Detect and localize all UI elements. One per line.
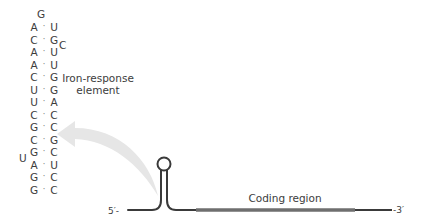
curved-arrow-icon	[57, 121, 158, 196]
base-left: G	[29, 121, 39, 133]
base-pair: G · C	[29, 121, 63, 133]
pair-dot: ·	[41, 84, 47, 96]
pair-dot: ·	[41, 159, 47, 171]
base-right: G	[49, 34, 59, 46]
base-pair: A · U	[29, 46, 63, 58]
base-left: C	[29, 34, 39, 46]
pair-dot: ·	[41, 71, 47, 83]
base-right: G	[49, 71, 59, 83]
base-pair: U · G	[29, 84, 63, 96]
element-label: Iron-response element	[60, 72, 136, 96]
base-left: G	[29, 184, 39, 196]
base-right: U	[49, 59, 59, 71]
bulge-nucleotide-right: C	[59, 39, 66, 51]
five-prime-label: 5′-	[108, 205, 119, 217]
base-pair: A · U	[29, 159, 63, 171]
base-right: A	[49, 96, 59, 108]
base-pair: C · G	[29, 134, 63, 146]
pair-dot: ·	[41, 134, 47, 146]
pair-dot: ·	[41, 96, 47, 108]
loop-top-nucleotide: G	[37, 8, 45, 20]
base-right: U	[49, 159, 59, 171]
bulge-nucleotide-left: U	[19, 152, 27, 164]
base-left: A	[29, 59, 39, 71]
pair-dot: ·	[41, 46, 47, 58]
element-label-line2: element	[60, 84, 136, 96]
base-right: U	[49, 46, 59, 58]
base-pair: C · G	[29, 34, 63, 46]
base-pair: A · U	[29, 21, 63, 33]
base-left: C	[29, 109, 39, 121]
base-left: G	[29, 146, 39, 158]
base-pair: G · C	[29, 171, 63, 183]
base-right: C	[49, 171, 59, 183]
pair-dot: ·	[41, 109, 47, 121]
base-right: C	[49, 184, 59, 196]
ire-diagram: G A · U C · G A · U A · U C · G U · G U …	[0, 0, 423, 223]
base-left: C	[29, 71, 39, 83]
pair-dot: ·	[41, 21, 47, 33]
element-label-line1: Iron-response	[60, 72, 136, 84]
base-right: G	[49, 134, 59, 146]
base-right: C	[49, 109, 59, 121]
pair-dot: ·	[41, 59, 47, 71]
pair-dot: ·	[41, 146, 47, 158]
base-left: A	[29, 46, 39, 58]
base-right: C	[49, 146, 59, 158]
base-pair: A · U	[29, 59, 63, 71]
base-right: C	[49, 121, 59, 133]
diagram-graphics	[0, 0, 423, 223]
pair-dot: ·	[41, 34, 47, 46]
pair-dot: ·	[41, 184, 47, 196]
base-left: C	[29, 134, 39, 146]
base-pair: C · G	[29, 71, 63, 83]
three-prime-label: -3′	[393, 204, 404, 216]
base-pair: G · C	[29, 184, 63, 196]
base-pair: C · C	[29, 109, 63, 121]
base-left: A	[29, 21, 39, 33]
base-left: G	[29, 171, 39, 183]
base-left: U	[29, 96, 39, 108]
pair-dot: ·	[41, 171, 47, 183]
base-right: U	[49, 21, 59, 33]
base-left: U	[29, 84, 39, 96]
base-pair: U · A	[29, 96, 63, 108]
base-left: A	[29, 159, 39, 171]
base-pair: G · C	[29, 146, 63, 158]
coding-region-label: Coding region	[240, 192, 330, 204]
pair-dot: ·	[41, 121, 47, 133]
base-right: G	[49, 84, 59, 96]
